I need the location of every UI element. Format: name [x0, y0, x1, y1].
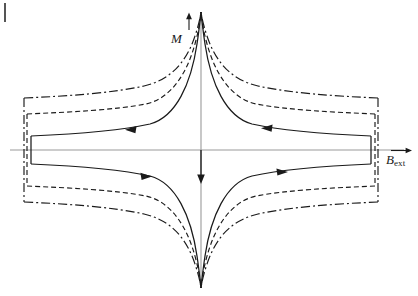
figure-container: M Bext: [0, 0, 418, 296]
magnetization-plot: [0, 0, 418, 296]
flow-arrow-lower-right: [276, 168, 288, 175]
m-axis-direction-arrow: [186, 13, 192, 31]
flow-arrow-markers: [125, 125, 288, 180]
x-axis-label: Bext: [386, 152, 405, 168]
origin-down-arrow: [197, 150, 205, 184]
flow-arrow-lower-left: [140, 173, 152, 180]
y-axis-label: M: [171, 31, 182, 47]
x-axis-label-base: B: [386, 152, 394, 167]
x-axis-label-subscript: ext: [394, 158, 405, 168]
